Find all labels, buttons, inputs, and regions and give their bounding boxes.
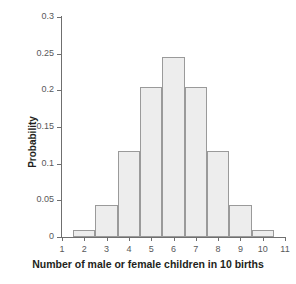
y-tick-label: 0 [49,231,54,242]
x-tick-mark [151,237,152,241]
histogram-bar [73,230,95,237]
x-tick-mark [84,237,85,241]
x-tick-label: 1 [59,244,64,255]
x-tick-label: 5 [149,244,154,255]
x-tick-label: 4 [126,244,131,255]
y-tick-label: 0.25 [36,48,54,59]
y-tick-mark [57,237,61,238]
x-tick-mark [285,237,286,241]
x-tick-label: 2 [82,244,87,255]
x-tick-mark [62,237,63,241]
x-tick-mark [240,237,241,241]
y-tick-mark [57,54,61,55]
x-tick-mark [218,237,219,241]
plot-area [62,17,285,237]
x-tick-mark [263,237,264,241]
y-tick-label: 0.1 [41,158,54,169]
x-tick-label: 3 [104,244,109,255]
y-tick-label: 0.05 [36,194,54,205]
histogram-bar [140,87,162,237]
y-tick-mark [57,164,61,165]
histogram-bar [185,87,207,237]
y-tick-label: 0.15 [36,121,54,132]
histogram-figure: Probability 00.050.10.150.20.250.3 12345… [0,0,296,284]
histogram-bar [95,205,117,237]
y-tick-mark [57,90,61,91]
x-tick-mark [174,237,175,241]
x-axis-title: Number of male or female children in 10 … [0,258,296,270]
histogram-bar [207,151,229,237]
y-tick-label: 0.2 [41,84,54,95]
y-tick-mark [57,200,61,201]
histogram-bar [229,205,251,237]
x-tick-label: 9 [238,244,243,255]
x-tick-mark [129,237,130,241]
histogram-bar [162,57,184,237]
x-tick-label: 8 [216,244,221,255]
x-tick-label: 11 [280,244,289,255]
x-tick-mark [196,237,197,241]
histogram-bar [118,151,140,237]
x-tick-mark [107,237,108,241]
y-tick-mark [57,127,61,128]
y-tick-mark [57,17,61,18]
histogram-bar [252,230,274,237]
x-tick-label: 10 [258,244,268,255]
y-tick-label: 0.3 [41,11,54,22]
x-tick-label: 6 [171,244,176,255]
x-tick-label: 7 [193,244,198,255]
